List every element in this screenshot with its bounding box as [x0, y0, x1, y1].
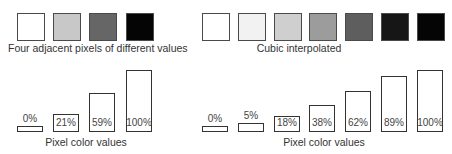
right-panel-cubic-interpolated: 0%5%18%38%62%89%100% — [0, 0, 452, 154]
pixel-value-label: 100% — [415, 117, 445, 128]
pixel-value-label: 0% — [200, 113, 230, 124]
pixel-swatch — [274, 13, 302, 41]
pixel-swatch — [417, 13, 445, 41]
pixel-swatch — [381, 13, 409, 41]
pixel-swatch — [309, 13, 337, 41]
pixel-value-bar — [238, 123, 264, 132]
pixel-swatch — [345, 13, 373, 41]
pixel-value-label: 62% — [343, 117, 373, 128]
pixel-swatch — [202, 13, 230, 41]
pixel-value-label: 38% — [307, 117, 337, 128]
pixel-value-bar — [202, 126, 228, 132]
pixel-value-label: 89% — [379, 117, 409, 128]
left-caption: Four adjacent pixels of different values — [8, 42, 172, 54]
pixel-value-label: 5% — [236, 110, 266, 121]
right-caption: Cubic interpolated — [250, 42, 348, 54]
right-bottom-label: Pixel color values — [278, 136, 370, 148]
left-bottom-label: Pixel color values — [40, 136, 132, 148]
pixel-swatch — [238, 13, 266, 41]
pixel-value-label: 18% — [272, 117, 302, 128]
